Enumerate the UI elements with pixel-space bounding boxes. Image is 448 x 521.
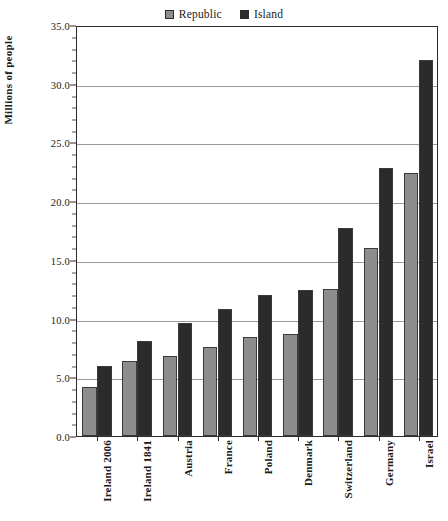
- bar-group: [238, 27, 278, 436]
- x-axis-label: France: [222, 440, 234, 474]
- bar-island: [97, 366, 112, 437]
- bar-island: [258, 295, 273, 436]
- legend-label-republic: Republic: [179, 8, 222, 20]
- y-tick-label: 35.0: [10, 21, 70, 32]
- legend-label-island: Island: [254, 8, 283, 20]
- bar-island: [379, 168, 394, 436]
- bar-island: [178, 323, 193, 436]
- bar-republic: [364, 248, 379, 436]
- x-axis-labels: Ireland 2006Ireland 1841AustriaFrancePol…: [76, 440, 438, 520]
- y-tick-label: 30.0: [10, 79, 70, 90]
- bar-group: [117, 27, 157, 436]
- bar-island: [218, 309, 233, 436]
- x-axis-label: Ireland 2006: [101, 440, 113, 502]
- x-axis-label: Germany: [383, 440, 395, 486]
- x-axis-label: Austria: [182, 440, 194, 477]
- legend-swatch-republic: [165, 10, 174, 19]
- bar-island: [338, 228, 353, 436]
- bar-republic: [82, 387, 97, 436]
- bars-layer: [77, 27, 437, 436]
- bar-chart: Republic Island Millions of people 0.05.…: [0, 0, 448, 521]
- x-axis-label: Switzerland: [342, 440, 354, 498]
- y-tick-label: 10.0: [10, 314, 70, 325]
- plot-area: [76, 26, 438, 437]
- bar-island: [137, 341, 152, 436]
- y-tick-label: 20.0: [10, 197, 70, 208]
- bar-group: [359, 27, 399, 436]
- bar-group: [77, 27, 117, 436]
- x-axis-label: Israel: [423, 440, 435, 468]
- bar-group: [157, 27, 197, 436]
- bar-group: [278, 27, 318, 436]
- y-tick-label: 0.0: [10, 432, 70, 443]
- bar-republic: [404, 173, 419, 436]
- bar-group: [399, 27, 439, 436]
- x-axis-label: Poland: [262, 440, 274, 474]
- bar-group: [318, 27, 358, 436]
- legend-item-island: Island: [240, 8, 283, 20]
- bar-republic: [243, 337, 258, 436]
- chart-legend: Republic Island: [0, 8, 448, 20]
- bar-republic: [163, 356, 178, 436]
- y-tick-label: 15.0: [10, 255, 70, 266]
- bar-republic: [203, 347, 218, 436]
- y-tick-label: 5.0: [10, 373, 70, 384]
- bar-republic: [283, 334, 298, 436]
- legend-item-republic: Republic: [165, 8, 222, 20]
- y-tick-label: 25.0: [10, 138, 70, 149]
- legend-swatch-island: [240, 10, 249, 19]
- x-axis-label: Ireland 1841: [141, 440, 153, 502]
- bar-republic: [323, 289, 338, 436]
- bar-island: [419, 60, 434, 436]
- bar-republic: [122, 361, 137, 436]
- x-axis-label: Denmark: [302, 440, 314, 486]
- bar-group: [198, 27, 238, 436]
- bar-island: [298, 290, 313, 436]
